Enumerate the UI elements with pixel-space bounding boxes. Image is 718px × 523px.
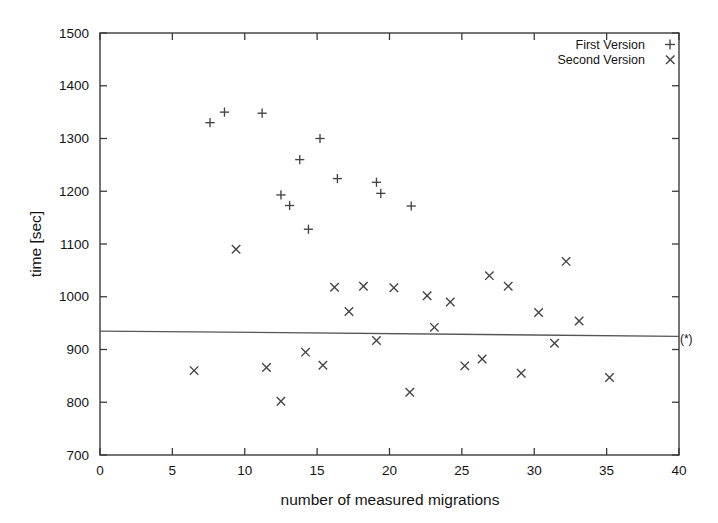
- data-point-plus: [205, 118, 214, 127]
- scatter-plot-figure: 700800900100011001200130014001500 051015…: [0, 0, 718, 523]
- data-point-cross: [190, 366, 198, 374]
- data-point-cross: [232, 245, 240, 253]
- data-point-plus: [295, 155, 304, 164]
- chart-legend: First Version Second Version: [557, 38, 675, 67]
- y-axis-ticks: 700800900100011001200130014001500: [59, 26, 679, 463]
- plot-annotations: (*): [680, 332, 693, 346]
- x-tick-label: 35: [599, 463, 614, 478]
- data-point-cross: [277, 397, 285, 405]
- data-point-cross: [359, 282, 367, 290]
- data-point-cross: [575, 317, 583, 325]
- x-tick-label: 40: [671, 463, 686, 478]
- y-tick-label: 900: [66, 342, 89, 357]
- series-first-version-points: [205, 108, 415, 234]
- reference-line-segment: [100, 331, 679, 336]
- x-tick-label: 5: [169, 463, 177, 478]
- data-point-cross: [485, 271, 493, 279]
- data-point-cross: [562, 257, 570, 265]
- x-tick-label: 0: [96, 463, 104, 478]
- data-point-cross: [550, 339, 558, 347]
- y-tick-label: 800: [66, 395, 89, 410]
- data-point-cross: [504, 282, 512, 290]
- data-point-cross: [330, 283, 338, 291]
- x-axis-ticks: 0510152025303540: [96, 33, 686, 478]
- series-second-version-points: [190, 245, 614, 405]
- y-tick-label: 700: [66, 448, 89, 463]
- y-tick-label: 1400: [59, 78, 89, 93]
- data-point-cross: [406, 388, 414, 396]
- data-point-cross: [534, 308, 542, 316]
- y-tick-label: 1300: [59, 131, 89, 146]
- data-point-plus: [304, 225, 313, 234]
- data-point-cross: [423, 291, 431, 299]
- legend-label-second-version: Second Version: [557, 53, 645, 67]
- y-tick-label: 1200: [59, 184, 89, 199]
- data-point-plus: [276, 190, 285, 199]
- data-point-plus: [220, 108, 229, 117]
- data-point-cross: [430, 323, 438, 331]
- data-point-cross: [461, 362, 469, 370]
- data-point-cross: [446, 298, 454, 306]
- data-point-cross: [390, 284, 398, 292]
- data-point-cross: [478, 355, 486, 363]
- data-point-plus: [315, 134, 324, 143]
- x-tick-label: 30: [527, 463, 542, 478]
- y-tick-label: 1000: [59, 289, 89, 304]
- x-tick-label: 10: [237, 463, 252, 478]
- data-point-plus: [376, 189, 385, 198]
- x-tick-label: 25: [454, 463, 469, 478]
- x-tick-label: 15: [310, 463, 325, 478]
- data-point-plus: [258, 109, 267, 118]
- data-point-plus: [372, 178, 381, 187]
- data-point-cross: [345, 307, 353, 315]
- data-point-cross: [319, 361, 327, 369]
- x-tick-label: 20: [382, 463, 397, 478]
- legend-marker-plus-icon: [665, 40, 675, 50]
- data-point-plus: [333, 174, 342, 183]
- y-axis-title: time [sec]: [27, 211, 44, 277]
- data-point-cross: [262, 363, 270, 371]
- legend-label-first-version: First Version: [576, 38, 646, 52]
- legend-marker-cross-icon: [666, 56, 675, 65]
- plot-canvas: 700800900100011001200130014001500 051015…: [0, 0, 718, 523]
- y-tick-label: 1500: [59, 26, 89, 41]
- data-point-cross: [605, 373, 613, 381]
- data-point-cross: [517, 369, 525, 377]
- data-point-cross: [372, 336, 380, 344]
- plot-frame: [100, 33, 679, 455]
- data-point-plus: [407, 201, 416, 210]
- data-point-cross: [301, 348, 309, 356]
- data-point-plus: [285, 201, 294, 210]
- x-axis-title: number of measured migrations: [281, 491, 500, 508]
- annotation-asterisk-note: (*): [680, 332, 693, 346]
- y-tick-label: 1100: [60, 237, 89, 252]
- reference-line: [100, 331, 679, 336]
